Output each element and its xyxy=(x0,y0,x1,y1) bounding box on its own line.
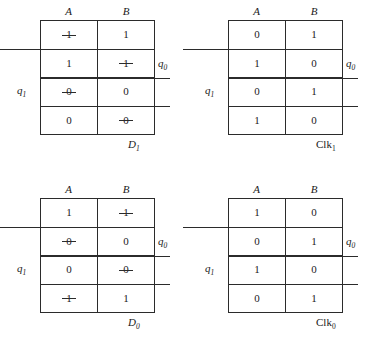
kmap-cell[interactable]: 0 xyxy=(41,256,98,284)
cell-value: 1 xyxy=(122,207,130,218)
cell-value: 0 xyxy=(253,236,261,247)
kmap-cell[interactable]: 0 xyxy=(98,107,154,135)
kmap-cell[interactable]: 1 xyxy=(41,50,98,78)
group-label-q0: q0 xyxy=(158,57,167,72)
kmap-cell[interactable]: 0 xyxy=(229,285,286,313)
kmap-cell[interactable]: 0 xyxy=(41,107,98,135)
group-label-q0: q0 xyxy=(346,235,355,250)
group-label-q1-subscript: 1 xyxy=(211,90,215,99)
kmap-cell[interactable]: 1 xyxy=(229,199,286,227)
group-marker-line-q1 xyxy=(228,284,358,285)
group-label-q1: q1 xyxy=(17,262,26,277)
kmap-label-base: Clk xyxy=(316,316,332,328)
table-row: 11 xyxy=(41,50,154,79)
kmap-cell[interactable]: 1 xyxy=(229,107,286,135)
group-marker-line-q0 xyxy=(0,227,155,228)
table-row: 00 xyxy=(41,78,154,107)
cell-value: 1 xyxy=(122,293,130,304)
group-label-q1: q1 xyxy=(205,84,214,99)
kmap-cell[interactable]: 1 xyxy=(41,199,98,227)
kmap-d1: AB11110000q0q1D1 xyxy=(10,2,165,162)
kmap-cell[interactable]: 1 xyxy=(98,199,154,227)
kmap-label-clk0: Clk0 xyxy=(316,316,336,331)
kmap-column-headers: AB xyxy=(228,2,343,20)
kmap-cell[interactable]: 1 xyxy=(41,21,98,49)
group-label-q1-subscript: 1 xyxy=(211,268,215,277)
group-marker-line-q0 xyxy=(183,49,343,50)
table-row: 10 xyxy=(229,199,342,228)
table-row: 00 xyxy=(41,256,154,285)
cell-value: 0 xyxy=(253,29,261,40)
kmap-label-subscript: 0 xyxy=(136,322,140,331)
group-label-q0-subscript: 0 xyxy=(352,241,356,250)
group-label-q0-subscript: 0 xyxy=(164,241,168,250)
cell-value: 0 xyxy=(122,115,130,126)
karnaugh-map-figure: { "figure": { "title": "Karnaugh maps fo… xyxy=(0,0,367,353)
column-header-b: B xyxy=(98,2,156,20)
table-row: 01 xyxy=(229,228,342,257)
kmap-cell[interactable]: 0 xyxy=(229,78,286,106)
kmap-cell[interactable]: 0 xyxy=(286,50,342,78)
table-row: 11 xyxy=(41,21,154,50)
cell-value: 0 xyxy=(310,58,318,69)
kmap-cell[interactable]: 1 xyxy=(98,50,154,78)
kmap-cell[interactable]: 1 xyxy=(229,256,286,284)
kmap-column-headers: AB xyxy=(40,180,155,198)
kmap-label-base: Clk xyxy=(316,138,332,150)
kmap-label-subscript: 1 xyxy=(136,144,140,153)
group-marker-line-q1 xyxy=(40,256,170,257)
column-header-a: A xyxy=(228,2,286,20)
column-header-a: A xyxy=(40,180,98,198)
group-marker-line-q0 xyxy=(183,227,343,228)
kmap-label-base: D xyxy=(128,316,136,328)
cell-value: 1 xyxy=(122,29,130,40)
kmap-cell[interactable]: 0 xyxy=(229,228,286,256)
kmap-cell[interactable]: 1 xyxy=(286,228,342,256)
kmap-column-headers: AB xyxy=(40,2,155,20)
group-marker-line-q1 xyxy=(40,106,170,107)
kmap-cell[interactable]: 0 xyxy=(286,256,342,284)
kmap-clk1: AB01100110q0q1Clk1 xyxy=(198,2,353,162)
group-marker-line-q1 xyxy=(228,256,358,257)
table-row: 01 xyxy=(229,285,342,313)
kmap-cell[interactable]: 0 xyxy=(41,228,98,256)
kmap-label-d1: D1 xyxy=(128,138,140,153)
kmap-cell[interactable]: 1 xyxy=(41,285,98,313)
group-marker-line-q1 xyxy=(228,78,358,79)
kmap-grid: AB11110000q0q1D1AB01100110q0q1Clk1AB1100… xyxy=(0,0,367,353)
group-label-q0: q0 xyxy=(158,235,167,250)
kmap-cell[interactable]: 1 xyxy=(98,21,154,49)
cell-value: 1 xyxy=(122,58,130,69)
column-header-b: B xyxy=(286,2,344,20)
group-label-q1: q1 xyxy=(205,262,214,277)
cell-value: 1 xyxy=(65,58,73,69)
kmap-cell[interactable]: 1 xyxy=(286,285,342,313)
kmap-cell[interactable]: 0 xyxy=(229,21,286,49)
group-label-q0: q0 xyxy=(346,57,355,72)
kmap-column-headers: AB xyxy=(228,180,343,198)
cell-value: 0 xyxy=(122,236,130,247)
cell-value: 1 xyxy=(65,207,73,218)
cell-value: 0 xyxy=(122,264,130,275)
group-label-q1-subscript: 1 xyxy=(23,268,27,277)
kmap-cell[interactable]: 0 xyxy=(286,107,342,135)
cell-value: 0 xyxy=(310,264,318,275)
kmap-cell[interactable]: 0 xyxy=(98,256,154,284)
column-header-a: A xyxy=(228,180,286,198)
cell-value: 1 xyxy=(253,58,261,69)
kmap-cell[interactable]: 1 xyxy=(98,285,154,313)
kmap-cell[interactable]: 1 xyxy=(286,21,342,49)
kmap-cell[interactable]: 1 xyxy=(229,50,286,78)
cell-value: 0 xyxy=(65,115,73,126)
kmap-cell[interactable]: 0 xyxy=(41,78,98,106)
table-row: 10 xyxy=(229,256,342,285)
column-header-a: A xyxy=(40,2,98,20)
table-row: 11 xyxy=(41,199,154,228)
kmap-label-base: D xyxy=(128,138,136,150)
kmap-cell[interactable]: 0 xyxy=(286,199,342,227)
kmap-cell[interactable]: 0 xyxy=(98,228,154,256)
kmap-cell[interactable]: 1 xyxy=(286,78,342,106)
kmap-cell[interactable]: 0 xyxy=(98,78,154,106)
cell-value: 1 xyxy=(65,293,73,304)
cell-value: 0 xyxy=(65,86,73,97)
